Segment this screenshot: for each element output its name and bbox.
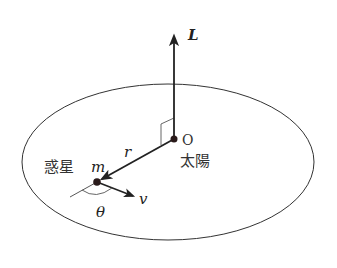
label-L: L xyxy=(187,26,199,44)
label-v: v xyxy=(139,190,148,208)
label-theta: θ xyxy=(96,203,105,221)
label-planet: 惑星 xyxy=(44,158,74,176)
label-m: m xyxy=(91,158,105,176)
theta-angle-arc xyxy=(82,188,112,195)
velocity-arrow xyxy=(97,182,133,196)
label-sun: 太陽 xyxy=(180,152,210,170)
orbit-diagram: L O 太陽 r 惑星 m v θ xyxy=(0,0,337,268)
label-O: O xyxy=(182,132,193,148)
radius-arrow xyxy=(102,139,174,179)
planet-dot xyxy=(93,178,101,186)
sun-dot xyxy=(171,136,178,143)
label-r: r xyxy=(124,143,132,161)
